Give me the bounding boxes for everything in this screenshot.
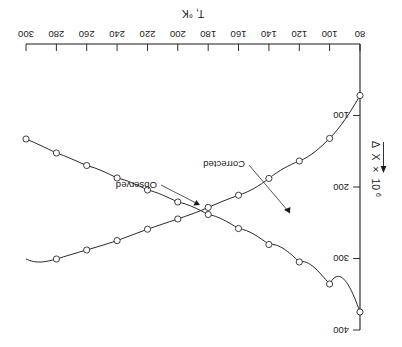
data-point [327,281,333,287]
series-observed-markers [53,92,363,262]
data-point [357,309,363,315]
x-tick-label: 240 [109,29,125,40]
rotated-figure-container: 80 100 120 140 160 180 200 220 240 260 2… [0,0,402,347]
x-axis-tick-labels: 80 100 120 140 160 180 200 220 240 260 2… [18,29,365,40]
y-axis-title-exponent: 6 [375,193,382,197]
y-axis-tick-labels: 100 200 300 400 [333,110,349,336]
y-axis-title: Δ X × 10 6 [370,141,382,197]
data-point [357,92,363,98]
x-tick-label: 120 [291,29,307,40]
data-point [53,150,59,156]
x-axis: 80 100 120 140 160 180 200 220 240 260 2… [18,8,365,51]
y-tick-label: 200 [333,182,349,193]
y-axis-title-group: Δ X × 10 6 [370,141,382,197]
data-point [266,175,272,181]
data-point [84,247,90,253]
x-axis-ticks [26,44,360,51]
x-tick-label: 140 [261,29,277,40]
x-tick-label: 300 [18,29,34,40]
data-point [327,135,333,141]
series-observed [26,92,363,262]
data-point [266,241,272,247]
y-axis-title-delta: Δ [370,141,382,148]
annotation-observed-label: Observed [116,180,157,191]
series-corrected-line [26,139,360,312]
data-point [235,192,241,198]
x-axis-title: T, °K [182,8,204,20]
y-tick-label: 100 [333,110,349,121]
x-tick-label: 180 [200,29,216,40]
data-point [175,199,181,205]
x-tick-label: 260 [79,29,95,40]
x-tick-label: 160 [231,29,247,40]
series-corrected [23,136,363,315]
annotation-corrected: Corrected [203,159,290,214]
x-tick-label: 200 [170,29,186,40]
data-point [235,225,241,231]
data-point [175,216,181,222]
y-axis-title-symbol: X [370,153,382,160]
y-axis: 100 200 300 400 Δ X × 10 6 [333,44,386,336]
y-tick-label: 400 [333,325,349,336]
y-axis-title-base: 10 [370,178,382,190]
x-tick-label: 280 [48,29,64,40]
x-tick-label: 100 [322,29,338,40]
plot-surface: 80 100 120 140 160 180 200 220 240 260 2… [0,0,402,347]
data-point [53,256,59,262]
y-axis-title-times: × [370,166,382,172]
data-point [23,136,29,142]
chart-svg: 80 100 120 140 160 180 200 220 240 260 2… [0,0,402,347]
x-tick-label: 80 [355,29,366,40]
y-tick-label: 300 [333,253,349,264]
data-point [296,259,302,265]
data-point [205,204,211,210]
series-corrected-markers [23,136,363,315]
annotation-corrected-label: Corrected [203,159,245,170]
data-point [144,226,150,232]
annotation-arrowhead-icon [193,200,200,206]
data-point [84,162,90,168]
data-point [114,238,120,244]
data-point [205,211,211,217]
data-point [296,158,302,164]
series-observed-line [26,96,360,263]
x-tick-label: 220 [140,29,156,40]
